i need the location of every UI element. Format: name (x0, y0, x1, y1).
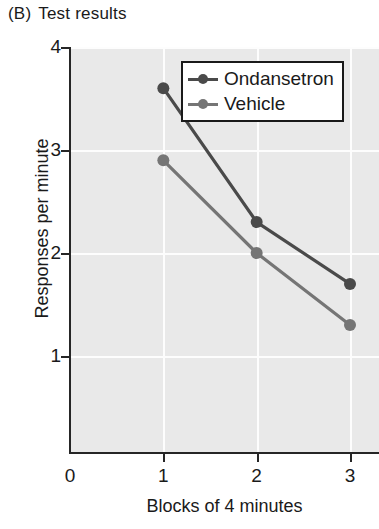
y-axis-tick (61, 47, 70, 49)
panel-title-text: Test results (38, 4, 126, 23)
x-axis-tick-label: 3 (330, 466, 370, 485)
legend-label: Ondansetron (224, 69, 334, 88)
x-axis-tick-label: 2 (237, 466, 277, 485)
y-axis-tick (61, 150, 70, 152)
x-axis-title: Blocks of 4 minutes (70, 496, 379, 517)
x-axis-tick (257, 453, 259, 462)
gridline-horizontal (70, 47, 379, 49)
x-axis-tick (350, 453, 352, 462)
gridline-horizontal (70, 150, 379, 152)
x-axis-line (69, 452, 379, 454)
gridline-vertical (163, 47, 165, 453)
figure-panel-b: (B)Test results 12340123 OndansetronVehi… (0, 0, 379, 529)
legend: OndansetronVehicle (181, 61, 344, 122)
x-axis-tick-label: 1 (143, 466, 183, 485)
x-axis-tick (163, 453, 165, 462)
y-axis-tick (61, 253, 70, 255)
x-axis-tick-label: 0 (50, 466, 90, 485)
legend-marker-icon (188, 97, 218, 111)
legend-label: Vehicle (224, 94, 285, 113)
y-axis-title: Responses per minute (32, 69, 53, 389)
y-axis-tick-label: 4 (21, 37, 61, 56)
gridline-vertical (350, 47, 352, 453)
legend-marker-icon (188, 72, 218, 86)
gridline-horizontal (70, 356, 379, 358)
legend-item: Ondansetron (188, 66, 334, 91)
y-axis-line (69, 47, 71, 454)
page-title: (B)Test results (8, 4, 127, 24)
gridline-horizontal (70, 253, 379, 255)
panel-letter: (B) (8, 4, 31, 23)
y-axis-tick (61, 356, 70, 358)
legend-item: Vehicle (188, 91, 334, 116)
